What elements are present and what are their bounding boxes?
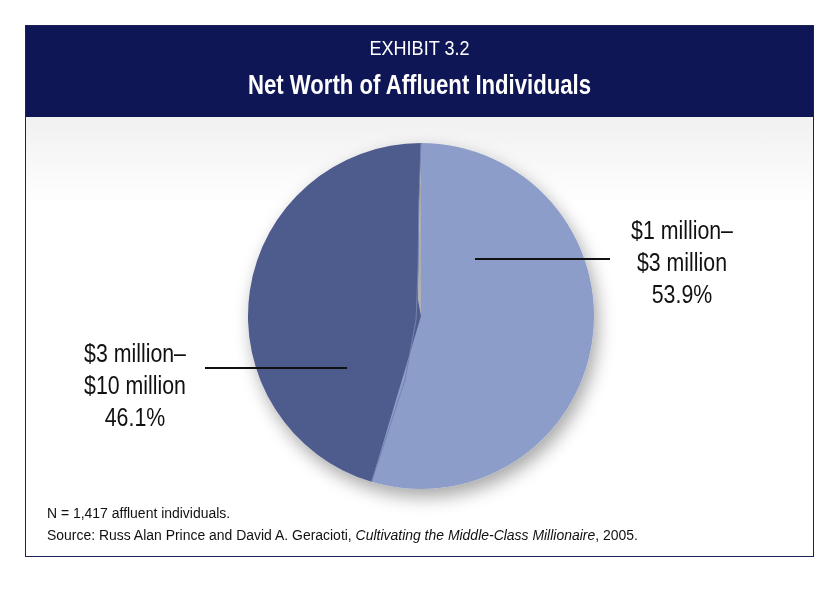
slice-label-line1: $1 million–: [600, 214, 764, 246]
sample-size-note: N = 1,417 affluent individuals.: [47, 504, 230, 522]
source-prefix: Source: Russ Alan Prince and David A. Ge…: [47, 526, 356, 543]
slice-label-line1: $3 million–: [49, 337, 221, 369]
source-title: Cultivating the Middle-Class Millionaire: [356, 526, 596, 543]
source-suffix: , 2005.: [595, 526, 638, 543]
leader-line-right: [475, 258, 610, 260]
slice-label-line2: $3 million: [600, 246, 764, 278]
slice-label-line2: $10 million: [49, 369, 221, 401]
slice-label-1m-3m: $1 million– $3 million 53.9%: [600, 214, 764, 310]
leader-line-left: [205, 367, 347, 369]
slice-label-pct: 46.1%: [49, 401, 221, 433]
source-note: Source: Russ Alan Prince and David A. Ge…: [47, 526, 638, 544]
slice-label-pct: 53.9%: [600, 278, 764, 310]
slice-label-3m-10m: $3 million– $10 million 46.1%: [49, 337, 221, 433]
